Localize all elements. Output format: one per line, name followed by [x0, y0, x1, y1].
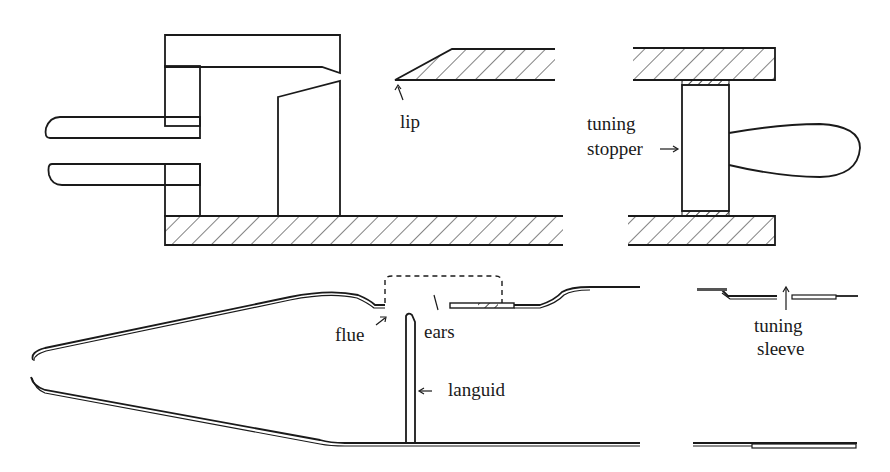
bottom-wall [165, 216, 563, 245]
tuning-upper-wall [633, 48, 775, 80]
tuning-sleeve [792, 295, 836, 299]
foot-upper-edge [33, 292, 386, 360]
languid [406, 314, 415, 443]
ears-label: ears [424, 321, 455, 342]
languid-label: languid [448, 379, 505, 400]
metal-pipe-section: flue ears languid tuning sleeve [31, 276, 858, 448]
flue-arrow [376, 318, 385, 325]
stopper-handle [729, 124, 860, 177]
tuning-sleeve-label-2: sleeve [757, 338, 804, 359]
upper-foot-stub [46, 117, 201, 138]
lip-label: lip [400, 111, 420, 132]
tuning-lower-wall [628, 216, 775, 245]
organ-pipe-diagram: lip tuning stopper flue [0, 0, 890, 472]
ears-outline [385, 276, 502, 303]
flue-label: flue [335, 324, 365, 345]
foot-lower-edge [31, 377, 640, 443]
lower-inner-block [165, 164, 200, 216]
tuning-stopper-label-2: stopper [587, 138, 644, 159]
tuning-stopper-label-1: tuning [587, 113, 636, 134]
tuning-stopper [682, 85, 729, 211]
ears-edge-mark [434, 295, 438, 310]
body-upper-edge [514, 287, 640, 305]
lower-foot-stub [48, 164, 200, 185]
cap-block [165, 35, 340, 73]
languid-block [278, 81, 340, 216]
tuning-sleeve-label-1: tuning [754, 315, 803, 336]
wooden-pipe-section: lip tuning stopper [46, 35, 861, 245]
lip-wedge [395, 49, 555, 80]
